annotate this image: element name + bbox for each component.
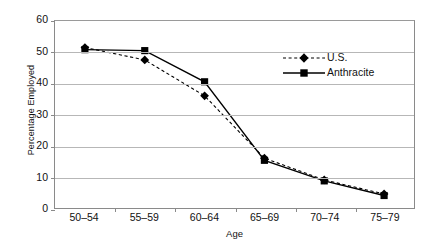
chart-figure: Percentage Employed 0102030405060 50–545… bbox=[0, 0, 442, 251]
y-tick-label: 10 bbox=[24, 172, 48, 183]
y-tick-label: 60 bbox=[24, 14, 48, 25]
legend-item-anthracite: Anthracite bbox=[281, 65, 401, 80]
y-tick-label: 50 bbox=[24, 46, 48, 57]
gridline bbox=[55, 147, 414, 148]
y-tick-mark bbox=[51, 147, 55, 148]
y-axis-tick-labels: 0102030405060 bbox=[22, 0, 48, 251]
y-tick-label: 30 bbox=[24, 109, 48, 120]
y-tick-mark bbox=[51, 21, 55, 22]
data-point-diamond bbox=[140, 56, 149, 65]
legend-label-us: U.S. bbox=[327, 52, 347, 63]
x-axis-title: Age bbox=[54, 228, 415, 239]
y-tick-mark bbox=[51, 52, 55, 53]
data-point-square bbox=[381, 192, 388, 199]
legend-marker-diamond-dashed bbox=[281, 51, 327, 65]
y-tick-label: 0 bbox=[24, 203, 48, 214]
y-tick-mark bbox=[51, 84, 55, 85]
legend-label-anthracite: Anthracite bbox=[327, 67, 374, 78]
gridline bbox=[55, 115, 414, 116]
legend-marker-square-solid bbox=[281, 66, 327, 80]
y-tick-mark bbox=[51, 210, 55, 211]
chart-legend: U.S. Anthracite bbox=[281, 50, 401, 84]
y-tick-mark bbox=[51, 115, 55, 116]
data-point-square bbox=[141, 47, 148, 54]
legend-item-us: U.S. bbox=[281, 50, 401, 65]
plot-area bbox=[54, 20, 415, 209]
gridline bbox=[55, 178, 414, 179]
x-axis-tick-labels: 50–5455–5960–6465–6970–7475–79 bbox=[54, 212, 415, 228]
y-tick-mark bbox=[51, 178, 55, 179]
data-point-square bbox=[261, 157, 268, 164]
y-tick-label: 40 bbox=[24, 77, 48, 88]
y-tick-label: 20 bbox=[24, 140, 48, 151]
x-tick-label: 75–79 bbox=[350, 212, 420, 223]
